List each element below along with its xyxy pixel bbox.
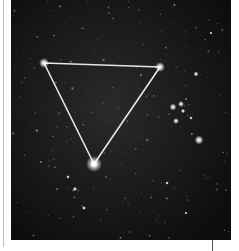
top-right-star xyxy=(155,62,165,72)
left-border-rule xyxy=(3,0,4,247)
star-field-svg xyxy=(11,0,231,240)
bottom-tick-mark xyxy=(212,240,213,251)
star-field-photo xyxy=(11,0,231,240)
sky-background xyxy=(11,0,231,240)
top-left-star xyxy=(39,58,49,68)
